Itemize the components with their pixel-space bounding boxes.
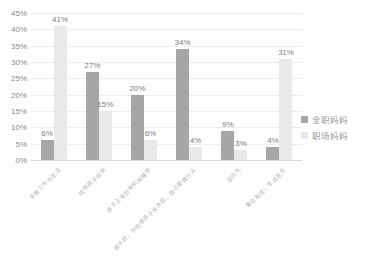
x-axis-category-label: 陪伴孩子成长 (76, 166, 107, 197)
data-label: 4% (267, 136, 279, 145)
data-label: 9% (222, 120, 234, 129)
legend-swatch-icon (301, 132, 308, 139)
data-label: 31% (278, 48, 294, 57)
bar-series2-group4 (189, 147, 202, 160)
gridline (31, 78, 302, 79)
bar-series2-group6 (279, 59, 292, 160)
bar-series1-group1 (41, 140, 54, 160)
gridline (31, 13, 302, 14)
data-label: 20% (129, 84, 145, 93)
bar-series1-group2 (86, 72, 99, 160)
legend-label: 职场妈妈 (312, 129, 348, 141)
data-label: 6% (41, 129, 53, 138)
bar-series1-group5 (221, 131, 234, 160)
chart-legend: 全职妈妈职场妈妈 (301, 113, 348, 141)
gridline (31, 111, 302, 112)
bar-series2-group2 (99, 111, 112, 160)
y-axis-tick: 15% (11, 107, 27, 116)
legend-swatch-icon (301, 116, 308, 123)
x-axis-category-label: 说不好，不知道孩子长大后，自己能做什么 (111, 166, 197, 252)
bar-series2-group5 (234, 150, 247, 160)
y-axis-tick: 35% (11, 41, 27, 50)
plot-area: 0%5%10%15%20%25%30%35%40%45%6%41%27%15%2… (31, 13, 302, 160)
x-axis-category-label: 平衡工作与生活 (27, 166, 62, 201)
y-axis-tick: 45% (11, 9, 27, 18)
gridline (31, 29, 302, 30)
bar-series1-group3 (131, 95, 144, 160)
bar-series2-group1 (54, 26, 67, 160)
y-axis-tick: 25% (11, 74, 27, 83)
data-label: 27% (84, 61, 100, 70)
gridline (31, 95, 302, 96)
data-label: 3% (235, 139, 247, 148)
bar-series1-group6 (266, 147, 279, 160)
data-label: 6% (145, 129, 157, 138)
bar-series1-group4 (176, 49, 189, 160)
y-axis-tick: 10% (11, 123, 27, 132)
data-label: 15% (97, 100, 113, 109)
gridline (31, 62, 302, 63)
x-axis-category-label: 事业有成，生活充实 (244, 166, 288, 210)
gridline (31, 144, 302, 145)
legend-label: 全职妈妈 (312, 113, 348, 125)
bar-series2-group3 (144, 140, 157, 160)
y-axis-tick: 30% (11, 58, 27, 67)
data-label: 4% (190, 136, 202, 145)
y-axis-tick: 20% (11, 90, 27, 99)
data-label: 34% (175, 38, 191, 47)
y-axis-tick: 40% (11, 25, 27, 34)
legend-item: 全职妈妈 (301, 113, 348, 125)
data-label: 41% (52, 15, 68, 24)
x-axis-category-label: 孩子上学后有机会辅导 (104, 166, 152, 214)
y-axis-tick: 5% (15, 139, 27, 148)
grouped-bar-chart: 0%5%10%15%20%25%30%35%40%45%6%41%27%15%2… (0, 0, 369, 266)
x-axis-line (31, 160, 302, 161)
gridline (31, 46, 302, 47)
gridline (31, 127, 302, 128)
legend-item: 职场妈妈 (301, 129, 348, 141)
y-axis-tick: 0% (15, 156, 27, 165)
x-axis-category-label: 没代沟 (225, 166, 243, 184)
